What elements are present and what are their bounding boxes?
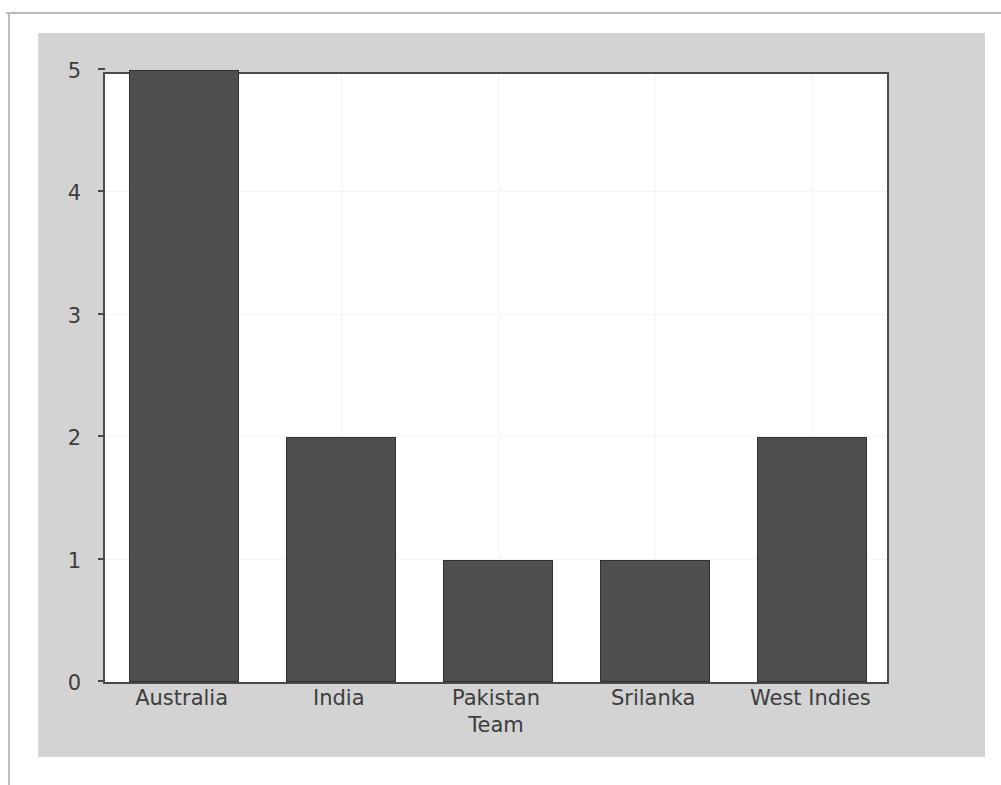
x-tick-label-srilanka: Srilanka xyxy=(611,688,695,709)
y-tick-mark-4 xyxy=(98,190,105,192)
x-tick-label-australia: Australia xyxy=(135,688,228,709)
bar-australia xyxy=(129,70,239,682)
bar-pakistan xyxy=(443,560,553,682)
x-tick-label-india: India xyxy=(313,688,365,709)
y-tick-label-3: 3 xyxy=(68,306,81,327)
y-tick-mark-0 xyxy=(98,680,105,682)
x-axis-title: Team xyxy=(103,715,889,736)
bar-west-indies xyxy=(757,437,867,682)
figure-canvas: 012345 AustraliaIndiaPakistanSrilankaWes… xyxy=(38,33,985,757)
y-tick-mark-2 xyxy=(98,435,105,437)
y-tick-label-5: 5 xyxy=(68,61,81,82)
y-tick-mark-3 xyxy=(98,313,105,315)
y-tick-label-0: 0 xyxy=(68,673,81,694)
y-axis-tick-labels: 012345 xyxy=(38,72,95,684)
y-tick-mark-5 xyxy=(98,68,105,70)
bar-india xyxy=(286,437,396,682)
document-border-top xyxy=(6,12,1001,14)
y-tick-label-1: 1 xyxy=(68,551,81,572)
x-tick-label-pakistan: Pakistan xyxy=(452,688,540,709)
plot-area xyxy=(103,72,889,684)
document-border-left xyxy=(8,12,10,785)
x-tick-label-west-indies: West Indies xyxy=(750,688,871,709)
y-tick-mark-1 xyxy=(98,558,105,560)
y-tick-label-4: 4 xyxy=(68,183,81,204)
y-tick-label-2: 2 xyxy=(68,428,81,449)
bar-srilanka xyxy=(600,560,710,682)
page-frame: 012345 AustraliaIndiaPakistanSrilankaWes… xyxy=(0,0,1001,785)
